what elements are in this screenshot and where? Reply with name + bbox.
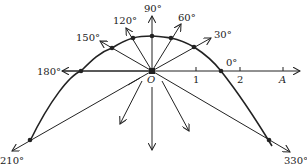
angle-label-60: 60° [178,12,196,23]
angle-label-210: 210° [0,155,24,166]
ray-210-extra [128,78,140,85]
ray-60 [152,24,181,71]
origin-label: O [147,74,155,85]
ray-120 [126,28,152,71]
angle-label-30: 30° [214,29,232,40]
angle-label-120: 120° [113,15,137,26]
tick-label-2: 2 [237,74,243,85]
angle-label-330: 330° [284,155,307,166]
point-90 [150,34,155,39]
point-330 [267,138,272,143]
angle-label-180: 180° [37,66,61,77]
polar-curve [30,36,272,146]
angle-label-150: 150° [76,32,100,43]
point-60 [169,36,174,41]
point-30 [192,45,197,50]
point-210 [28,138,33,143]
point-150 [110,46,115,51]
angle-label-90: 90° [144,3,162,14]
polar-diagram: O 1 2 A 0° 30° 60° 90° 120° 150° 180° 21… [0,0,307,168]
ray-150 [100,41,152,71]
tick-label-A: A [278,74,286,85]
point-120 [131,36,136,41]
tick-label-1: 1 [193,74,199,85]
ray-30 [152,38,211,71]
angle-label-0: 0° [226,57,237,68]
point-0 [219,69,224,74]
point-180 [79,69,84,74]
ray-300 [162,81,189,131]
